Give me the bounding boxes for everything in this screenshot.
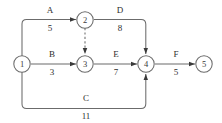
edge-label-a-name: A bbox=[47, 5, 54, 15]
network-diagram: 1 2 3 4 5 A 5 D 8 B 3 E 7 F 5 C 11 bbox=[0, 0, 222, 123]
edge-label-c-name: C bbox=[83, 93, 89, 103]
edge-label-b-name: B bbox=[49, 49, 55, 59]
node-1: 1 bbox=[14, 56, 30, 72]
edge-label-f-duration: 5 bbox=[174, 67, 179, 77]
edge-label-b-duration: 3 bbox=[50, 67, 55, 77]
node-5: 5 bbox=[196, 56, 212, 72]
edge-label-c-duration: 11 bbox=[82, 111, 91, 121]
edge-path-c bbox=[22, 72, 146, 109]
network-diagram-canvas: 1 2 3 4 5 A 5 D 8 B 3 E 7 F 5 C 11 bbox=[0, 0, 222, 123]
edge-label-e-name: E bbox=[113, 49, 119, 59]
node-1-label: 1 bbox=[20, 59, 24, 69]
node-3-label: 3 bbox=[83, 59, 87, 69]
node-3: 3 bbox=[77, 56, 93, 72]
node-2: 2 bbox=[77, 12, 93, 28]
edge-label-e-duration: 7 bbox=[114, 67, 119, 77]
node-4: 4 bbox=[138, 56, 154, 72]
node-2-label: 2 bbox=[83, 15, 87, 25]
edge-label-f-name: F bbox=[173, 49, 178, 59]
edge-label-d-name: D bbox=[117, 5, 124, 15]
edge-label-a-duration: 5 bbox=[48, 23, 53, 33]
node-5-label: 5 bbox=[202, 59, 206, 69]
edge-label-d-duration: 8 bbox=[118, 23, 123, 33]
